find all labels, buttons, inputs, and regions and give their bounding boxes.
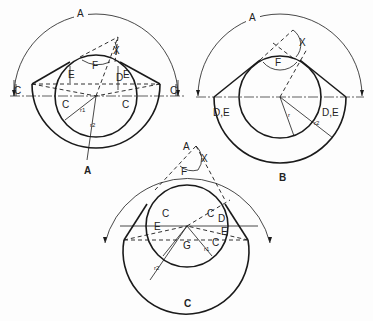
label-r2: r2 xyxy=(90,122,96,128)
dashed-right xyxy=(96,84,160,96)
arrow-head-icon xyxy=(360,90,364,96)
label-de-left: D,E xyxy=(213,107,230,118)
outer-arc xyxy=(32,84,160,148)
label-e-left: E xyxy=(68,69,75,80)
label-e-left: E xyxy=(154,221,161,232)
diagram-canvas: A X F E D E C C C C r1 xyxy=(0,0,373,321)
tangent-line-right xyxy=(300,60,346,97)
label-e-right: E xyxy=(221,226,228,237)
label-b-arc: A xyxy=(249,12,256,23)
panel-c: A X F C C E D E C G r1 r2 C xyxy=(103,141,272,314)
tangent-line-left xyxy=(124,204,147,240)
caption-a: A xyxy=(84,165,91,176)
label-f: F xyxy=(275,57,281,68)
arrow-head-icon xyxy=(196,90,200,96)
label-r1: r1 xyxy=(80,107,86,113)
label-c-outer-left: C xyxy=(14,85,21,96)
tangent-line-left xyxy=(32,62,70,84)
arrow-head-icon xyxy=(268,237,272,243)
label-c-inner-left: C xyxy=(62,99,69,110)
label-r1: r1 xyxy=(204,246,210,252)
label-c-inner-right: C xyxy=(122,99,129,110)
dashed-tangent-ext xyxy=(155,146,196,190)
diagram-svg: A X F E D E C C C C r1 xyxy=(0,0,373,321)
arc-end-ticks xyxy=(14,80,178,96)
label-c-outer-right: C xyxy=(170,85,177,96)
dimension-arc-a xyxy=(198,14,362,96)
label-g: G xyxy=(183,240,191,251)
panel-a: A X F E D E C C C C r1 xyxy=(10,8,184,176)
tangent-line-left xyxy=(214,60,260,97)
label-c-left: C xyxy=(162,208,169,219)
panel-b: A X F D,E D,E r r2 B xyxy=(196,12,364,183)
label-x: X xyxy=(201,153,208,164)
radius-r2 xyxy=(87,96,96,160)
dimension-arc-a xyxy=(105,178,270,243)
label-r: r xyxy=(288,112,290,118)
label-e-right: E xyxy=(123,69,130,80)
label-f: F xyxy=(181,166,187,177)
label-d: D xyxy=(218,213,225,224)
label-a-arc: A xyxy=(77,8,84,19)
caption-c: C xyxy=(184,298,191,309)
label-x: X xyxy=(113,45,120,56)
label-r2: r2 xyxy=(314,120,320,126)
arrow-head-icon xyxy=(103,237,107,243)
dashed-left xyxy=(32,84,96,96)
label-c-small: C xyxy=(212,237,219,248)
label-r2: r2 xyxy=(154,265,160,271)
caption-b: B xyxy=(279,172,286,183)
label-c-arc: A xyxy=(183,141,190,152)
label-f: F xyxy=(92,60,98,71)
label-x: X xyxy=(299,37,306,48)
label-de-right: D,E xyxy=(322,107,339,118)
label-c-right: C xyxy=(207,208,214,219)
